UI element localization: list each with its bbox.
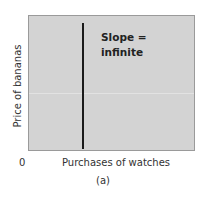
annotation-line-1: Slope =: [101, 30, 146, 45]
background-artifact: [29, 93, 194, 94]
y-axis-label: Price of bananas: [12, 44, 23, 127]
figure-caption: (a): [96, 175, 110, 186]
vertical-line: [82, 23, 84, 149]
slope-annotation: Slope = infinite: [101, 30, 146, 60]
annotation-line-2: infinite: [101, 45, 146, 60]
plot-area: Slope = infinite: [28, 15, 195, 151]
x-axis-label: Purchases of watches: [62, 157, 170, 168]
origin-label: 0: [19, 157, 25, 168]
